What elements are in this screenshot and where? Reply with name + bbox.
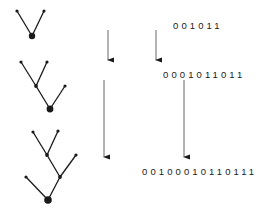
- binary-string-middle: 0001011011: [163, 69, 245, 80]
- binary-string-bottom: 00100010110111: [142, 166, 257, 177]
- arrows-svg: [0, 0, 272, 217]
- strings-panel: [136, 0, 272, 217]
- binary-string-top: 001011: [173, 20, 223, 31]
- figure-root: 001011 0001011011 00100010110111: [0, 0, 272, 217]
